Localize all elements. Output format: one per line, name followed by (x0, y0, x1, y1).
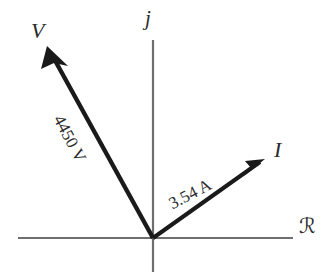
real-axis-label: ℛ (299, 216, 316, 237)
voltage-arrowhead-icon (41, 46, 68, 69)
current-arrowhead-icon (244, 159, 265, 176)
current-vector-symbol: I (274, 139, 281, 161)
voltage-vector-symbol: V (31, 20, 44, 42)
phasor-diagram: j ℛ V I 4450 V 3.54 A (0, 0, 326, 278)
imaginary-axis-label: j (145, 8, 151, 29)
